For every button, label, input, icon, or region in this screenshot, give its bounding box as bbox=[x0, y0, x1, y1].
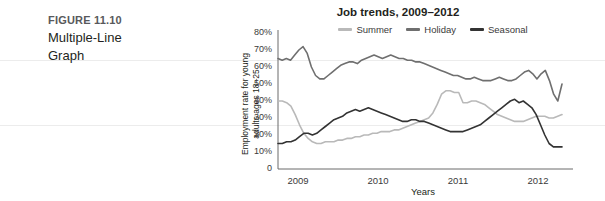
x-tick-label: 2009 bbox=[278, 175, 318, 186]
y-tick-label: 60% bbox=[234, 61, 272, 71]
x-tick-label: 2012 bbox=[518, 175, 558, 186]
figure-caption: FIGURE 11.10 Multiple-Line Graph bbox=[48, 12, 218, 64]
x-axis-title: Years bbox=[278, 186, 568, 197]
x-tick-label: 2010 bbox=[358, 175, 398, 186]
plot-svg bbox=[228, 0, 605, 201]
series-line-summer bbox=[278, 91, 562, 144]
figure-title-line-1: Multiple-Line bbox=[48, 29, 218, 46]
y-tick-label: 0 bbox=[234, 163, 272, 173]
line-chart: Job trends, 2009–2012 Summer Holiday Sea… bbox=[228, 0, 605, 201]
y-tick-label: 70% bbox=[234, 44, 272, 54]
axes bbox=[278, 30, 573, 169]
plot-area: 80%70%60%50%40%30%20%10%0 20092010201120… bbox=[228, 0, 605, 201]
figure-title-line-2: Graph bbox=[48, 47, 218, 64]
series-line-seasonal bbox=[278, 99, 562, 147]
x-tick-label: 2011 bbox=[438, 175, 478, 186]
y-tick-label: 20% bbox=[234, 129, 272, 139]
series-lines bbox=[278, 47, 562, 147]
y-tick-label: 80% bbox=[234, 27, 272, 37]
y-tick-label: 50% bbox=[234, 78, 272, 88]
y-tick-label: 40% bbox=[234, 95, 272, 105]
y-tick-label: 10% bbox=[234, 146, 272, 156]
figure-number: FIGURE 11.10 bbox=[48, 12, 218, 28]
series-line-holiday bbox=[278, 47, 562, 101]
y-tick-label: 30% bbox=[234, 112, 272, 122]
